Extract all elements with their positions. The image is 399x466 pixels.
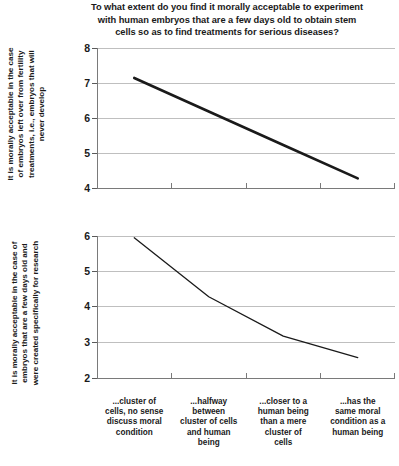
category-label-3: ...has thesame moralcondition as ahuman …	[321, 397, 396, 448]
category-label-line: than a mere	[260, 417, 306, 426]
y-tick-label-4: 4	[84, 300, 90, 312]
x-axis-category-labels: ...cluster ofcells, no sensediscuss mora…	[97, 397, 395, 448]
category-label-0: ...cluster ofcells, no sensediscuss mora…	[97, 397, 172, 448]
category-label-line: cluster of	[265, 428, 302, 437]
chart-page: To what extent do you find it morally ac…	[0, 0, 399, 466]
chart-lower-series-line	[97, 236, 395, 379]
y-title-line-2: embryos that are a few days old and	[20, 232, 30, 394]
category-label-line: ...cluster of	[112, 397, 156, 406]
y-title-line-2: of embryos left over from fertility	[16, 38, 26, 190]
category-label-line: cells, no sense	[105, 407, 163, 416]
category-label-line: cluster of cells	[180, 417, 237, 426]
y-title-line-3: treatments, i.e., embryos that will	[27, 38, 37, 190]
title-line-3: cells so as to find treatments for serio…	[115, 27, 339, 37]
chart-upper-y-axis-title: It is morally acceptable in the case of …	[6, 38, 48, 190]
chart-upper-series-line	[97, 48, 395, 189]
category-label-line: human being	[258, 407, 309, 416]
y-tick-label-7: 7	[84, 77, 90, 89]
y-tick-label-5: 5	[84, 147, 90, 159]
category-label-line: ...has the	[340, 397, 376, 406]
y-title-line-1: It is morally acceptable in the case of	[10, 232, 20, 394]
category-label-line: cells	[274, 438, 292, 447]
category-label-line: ...closer to a	[259, 397, 307, 406]
category-label-line: ...halfway	[190, 397, 227, 406]
chart-upper: It is morally acceptable in the case of …	[0, 40, 399, 200]
y-tick-label-8: 8	[84, 42, 90, 54]
category-label-line: discuss moral	[107, 417, 162, 426]
y-tick-label-5: 5	[84, 265, 90, 277]
y-title-line-3: were created specifically for research	[31, 232, 41, 394]
y-tick-label-4: 4	[84, 182, 90, 194]
category-label-line: being	[198, 438, 220, 447]
y-tick-label-6: 6	[84, 230, 90, 242]
category-label-line: condition	[116, 428, 153, 437]
category-label-line: same moral	[335, 407, 381, 416]
category-label-line: and human	[187, 428, 231, 437]
chart-lower-plot-area: 6 5 4 3 2	[97, 236, 395, 379]
title-line-2: with human embryos that are a few days o…	[98, 15, 357, 25]
title-line-1: To what extent do you find it morally ac…	[91, 2, 363, 12]
y-title-line-1: It is morally acceptable in the case	[6, 38, 16, 190]
chart-lower-y-axis-title: It is morally acceptable in the case of …	[10, 232, 41, 394]
y-tick-label-6: 6	[84, 112, 90, 124]
category-label-line: condition as a	[330, 417, 385, 426]
page-title: To what extent do you find it morally ac…	[58, 1, 396, 39]
y-title-line-4: never develop	[37, 38, 47, 190]
y-tick-label-3: 3	[84, 336, 90, 348]
category-label-1: ...halfwaybetweencluster of cellsand hum…	[172, 397, 247, 448]
category-label-line: between	[192, 407, 225, 416]
category-label-line: human being	[332, 428, 383, 437]
chart-upper-plot-area: 8 7 6 5 4	[97, 48, 395, 189]
category-label-2: ...closer to ahuman beingthan a mereclus…	[246, 397, 321, 448]
y-tick-label-2: 2	[84, 372, 90, 384]
